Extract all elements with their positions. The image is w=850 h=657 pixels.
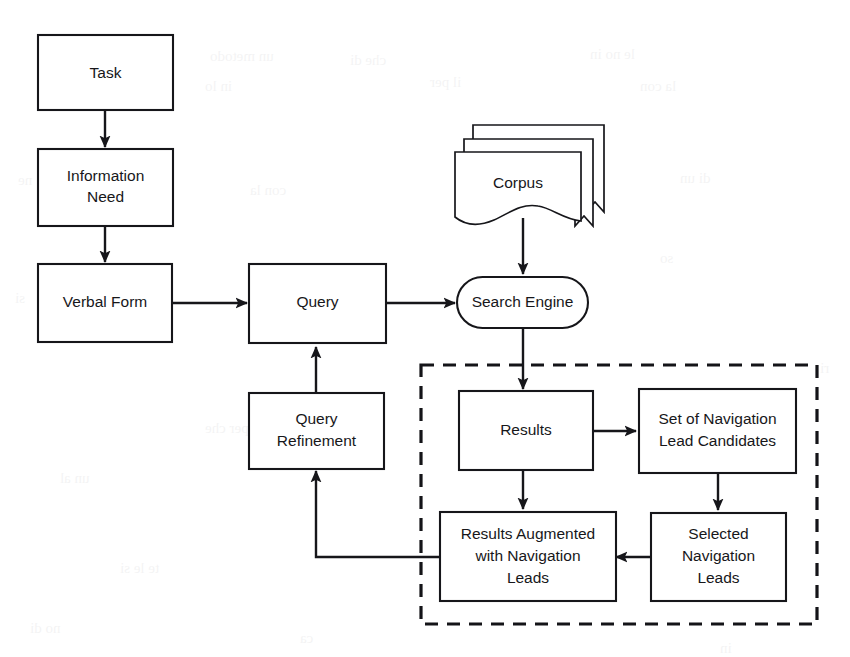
node-search-engine[interactable]: Search Engine (457, 277, 588, 328)
query-refinement-box (249, 393, 384, 469)
selected-leads-label-line2: Navigation (682, 547, 755, 564)
lead-candidates-label-line2: Lead Candidates (659, 432, 776, 449)
verbal-form-label: Verbal Form (63, 293, 147, 310)
corpus-label: Corpus (493, 174, 543, 191)
selected-leads-label-line1: Selected (688, 525, 748, 542)
node-query[interactable]: Query (249, 264, 386, 343)
lead-candidates-box (639, 389, 796, 473)
results-augmented-label-line2: with Navigation (474, 547, 580, 564)
results-augmented-label-line1: Results Augmented (461, 525, 595, 542)
query-label: Query (296, 293, 338, 310)
query-refinement-label-line2: Refinement (277, 432, 357, 449)
information-need-label-line1: Information (67, 167, 145, 184)
node-results[interactable]: Results (459, 391, 593, 470)
lead-candidates-label-line1: Set of Navigation (658, 410, 776, 427)
node-lead-candidates[interactable]: Set of Navigation Lead Candidates (639, 389, 796, 473)
node-results-augmented[interactable]: Results Augmented with Navigation Leads (440, 512, 616, 601)
node-query-refinement[interactable]: Query Refinement (249, 393, 384, 469)
selected-leads-label-line3: Leads (697, 569, 739, 586)
flow-diagram-canvas: Task Information Need Verbal Form Query … (0, 0, 850, 657)
search-engine-label: Search Engine (472, 293, 574, 310)
information-need-label-line2: Need (87, 188, 124, 205)
node-selected-leads[interactable]: Selected Navigation Leads (651, 513, 786, 601)
node-information-need[interactable]: Information Need (38, 149, 173, 226)
results-augmented-label-line3: Leads (507, 569, 549, 586)
results-label: Results (500, 421, 552, 438)
node-corpus[interactable]: Corpus (455, 125, 604, 226)
diagram-page: un metodo che di le no in in lo il per l… (0, 0, 850, 657)
task-label: Task (90, 64, 122, 81)
node-verbal-form[interactable]: Verbal Form (38, 264, 172, 342)
query-refinement-label-line1: Query (295, 410, 337, 427)
node-task[interactable]: Task (38, 35, 173, 110)
